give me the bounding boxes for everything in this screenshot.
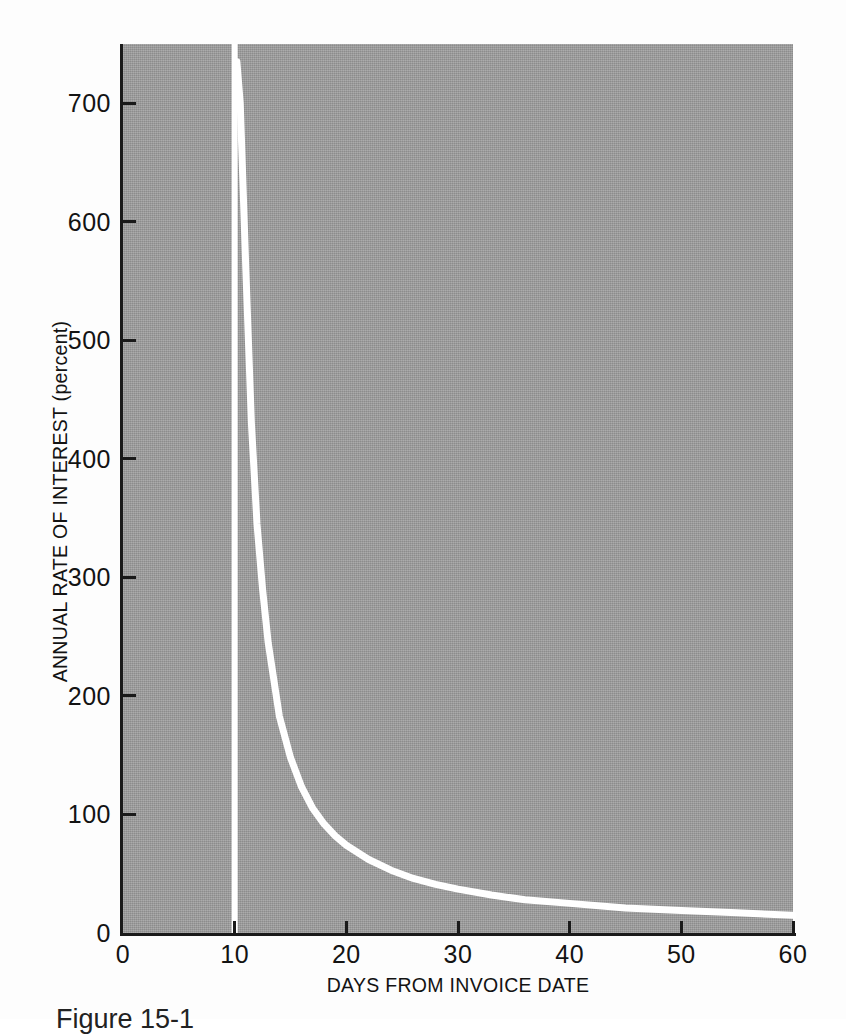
y-tick-200	[123, 694, 136, 697]
x-tick-label-60: 60	[758, 940, 828, 969]
y-axis-line	[120, 44, 123, 936]
plot-canvas	[123, 44, 793, 933]
figure-caption: Figure 15-1	[56, 1004, 194, 1035]
x-tick-label-20: 20	[311, 940, 381, 969]
x-tick-label-50: 50	[646, 940, 716, 969]
x-tick-label-30: 30	[423, 940, 493, 969]
y-tick-700	[123, 102, 136, 105]
x-tick-label-40: 40	[535, 940, 605, 969]
y-tick-100	[123, 813, 136, 816]
y-tick-label-100: 100	[43, 800, 111, 829]
x-tick-label-10: 10	[200, 940, 270, 969]
x-tick-60	[792, 921, 795, 934]
y-tick-label-600: 600	[43, 207, 111, 236]
x-tick-50	[680, 921, 683, 934]
x-tick-20	[345, 921, 348, 934]
x-tick-40	[568, 921, 571, 934]
x-tick-30	[457, 921, 460, 934]
x-tick-10	[233, 921, 236, 934]
y-tick-500	[123, 339, 136, 342]
interest-rate-curve	[237, 62, 793, 915]
y-axis-title: ANNUAL RATE OF INTEREST (percent)	[49, 252, 72, 752]
x-tick-label-0: 0	[88, 940, 158, 969]
y-tick-300	[123, 576, 136, 579]
y-tick-600	[123, 220, 136, 223]
y-tick-label-700: 700	[43, 89, 111, 118]
x-axis-title: DAYS FROM INVOICE DATE	[123, 974, 793, 997]
y-tick-400	[123, 457, 136, 460]
